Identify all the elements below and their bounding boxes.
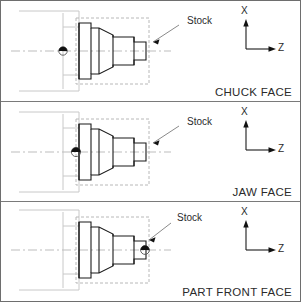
panel-caption-chuck-face: CHUCK FACE — [215, 86, 292, 98]
stock-leader-line — [153, 126, 179, 146]
axis-z-label: Z — [278, 243, 284, 254]
panel-caption-jaw-face: JAW FACE — [233, 186, 292, 198]
panel-caption-part-front-face: PART FRONT FACE — [182, 286, 292, 298]
axis-x-label: X — [241, 206, 248, 217]
stock-leader-line — [149, 223, 171, 243]
axis-indicator — [243, 220, 276, 253]
axis-z-label: Z — [278, 143, 284, 154]
axis-z-label: Z — [278, 42, 284, 53]
diagram-frame: X Z Stock CHUCK FACE — [0, 0, 301, 302]
axis-x-label: X — [241, 5, 248, 16]
axis-indicator — [243, 120, 276, 153]
stock-label: Stock — [187, 15, 212, 26]
axis-indicator — [243, 19, 276, 52]
origin-datum-marker — [141, 246, 150, 255]
panel-part-front-face: X Z Stock PART FRONT FACE — [1, 201, 300, 301]
panel-jaw-face: X Z Stock JAW FACE — [1, 101, 300, 201]
stock-leader-line — [153, 25, 179, 45]
stock-label: Stock — [187, 116, 212, 127]
panel-chuck-face: X Z Stock CHUCK FACE — [1, 1, 300, 101]
stock-label: Stock — [177, 212, 202, 223]
axis-x-label: X — [241, 106, 248, 117]
